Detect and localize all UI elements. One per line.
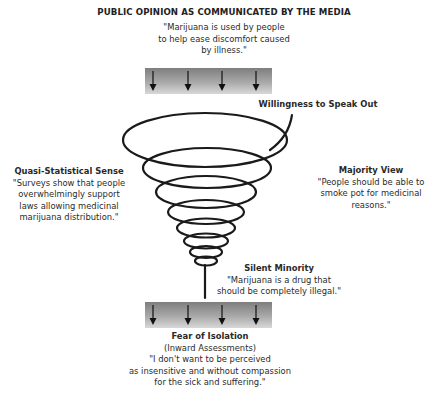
silent-minority: Silent Minority "Marijuana is a drug tha…: [204, 263, 354, 298]
left-line: marijuana distribution.": [0, 212, 138, 224]
left-line: "Surveys show that people: [0, 178, 138, 190]
right-heading: Majority View: [300, 165, 442, 177]
silent-line: should be completely illegal.": [204, 286, 354, 298]
left-heading: Quasi-Statistical Sense: [0, 166, 138, 178]
fear-of-isolation: Fear of Isolation (Inward Assessments) "…: [104, 331, 316, 389]
media-pressure-bar-bottom: [145, 302, 272, 328]
bottom-line: for the sick and suffering.": [104, 377, 316, 389]
majority-view: Majority View "People should be able to …: [300, 165, 442, 211]
down-arrow-icon: [183, 305, 193, 325]
bottom-line: as insensitive and without compassion: [104, 366, 316, 378]
left-line: laws allowing medicinal: [0, 201, 138, 213]
down-arrow-icon: [251, 305, 261, 325]
quasi-statistical-sense: Quasi-Statistical Sense "Surveys show th…: [0, 166, 138, 224]
silent-heading: Silent Minority: [204, 263, 354, 275]
right-line: "People should be able to: [300, 177, 442, 189]
bottom-line: "I don't want to be perceived: [104, 354, 316, 366]
down-arrow-icon: [217, 305, 227, 325]
silent-line: "Marijuana is a drug that: [204, 275, 354, 287]
right-line: reasons.": [300, 200, 442, 212]
left-line: overwhelmingly support: [0, 189, 138, 201]
bottom-heading: Fear of Isolation: [104, 331, 316, 343]
bottom-subheading: (Inward Assessments): [104, 343, 316, 355]
right-line: smoke pot for medicinal: [300, 188, 442, 200]
down-arrow-icon: [148, 305, 158, 325]
